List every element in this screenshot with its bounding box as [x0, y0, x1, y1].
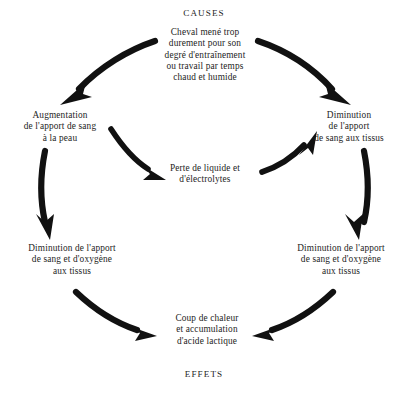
node-tissue-blood-line-2: de l'apport [292, 121, 406, 132]
node-fluid-loss-line-2: d'électrolytes [143, 174, 267, 185]
node-tissue-blood: Diminution de l'apport de sang aux tissu… [292, 110, 406, 144]
node-left-oxygen-line-3: aux tissus [8, 266, 136, 277]
node-skin-blood: Augmentation de l'apport de sang à la pe… [4, 110, 116, 144]
node-right-oxygen: Diminution de l'apport de sang et d'oxyg… [276, 243, 406, 277]
node-fluid-loss: Perte de liquide et d'électrolytes [143, 163, 267, 186]
node-tissue-blood-line-1: Diminution [292, 110, 406, 121]
node-heat-stroke-line-3: d'acide lactique [146, 336, 268, 347]
node-heat-stroke: Coup de chaleur et accumulation d'acide … [146, 313, 268, 347]
causes-label: CAUSES [144, 8, 264, 18]
node-cause-line-3: degré d'entraînement [141, 50, 269, 61]
node-skin-blood-line-1: Augmentation [4, 110, 116, 121]
node-cause-line-1: Cheval mené trop [141, 27, 269, 38]
node-skin-blood-line-3: à la peau [4, 133, 116, 144]
node-left-oxygen-line-2: de sang et d'oxygène [8, 254, 136, 265]
node-cause-line-2: durement pour son [141, 38, 269, 49]
node-skin-blood-line-2: de l'apport de sang [4, 121, 116, 132]
node-heat-stroke-line-2: et accumulation [146, 324, 268, 335]
arrow-tissue-blood-to-right-oxygen [345, 151, 368, 240]
node-cause-line-5: chaud et humide [141, 72, 269, 83]
node-left-oxygen: Diminution de l'apport de sang et d'oxyg… [8, 243, 136, 277]
diagram-canvas: CAUSES Cheval mené trop durement pour so… [0, 0, 409, 396]
node-heat-stroke-line-1: Coup de chaleur [146, 313, 268, 324]
arrow-left-oxygen-to-heat-stroke [76, 292, 157, 341]
node-right-oxygen-line-3: aux tissus [276, 266, 406, 277]
effets-label: EFFETS [144, 369, 264, 379]
arrow-skin-blood-to-left-oxygen [36, 151, 54, 240]
arrow-cause-to-tissue-blood [258, 41, 351, 105]
node-fluid-loss-line-1: Perte de liquide et [143, 163, 267, 174]
node-tissue-blood-line-3: de sang aux tissus [292, 133, 406, 144]
node-right-oxygen-line-1: Diminution de l'apport [276, 243, 406, 254]
node-left-oxygen-line-1: Diminution de l'apport [8, 243, 136, 254]
node-cause: Cheval mené trop durement pour son degré… [141, 27, 269, 84]
node-right-oxygen-line-2: de sang et d'oxygène [276, 254, 406, 265]
node-cause-line-4: ou travail par temps [141, 61, 269, 72]
